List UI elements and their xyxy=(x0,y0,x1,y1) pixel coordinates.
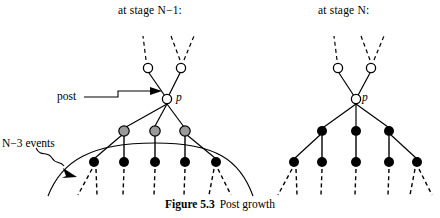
black-node xyxy=(180,157,190,167)
right-open-nodes xyxy=(333,63,375,72)
black-node xyxy=(89,157,99,167)
figure-caption-text: Post growth xyxy=(220,198,275,210)
stage-left-heading: at stage N−1: xyxy=(118,4,182,16)
left-post-to-gray-edges xyxy=(126,104,184,127)
dashed-edge xyxy=(278,169,292,195)
open-node xyxy=(143,63,152,72)
open-node xyxy=(366,63,375,72)
events-pointer-wave xyxy=(36,148,64,166)
black-node xyxy=(384,126,394,136)
right-mid-to-black-edges xyxy=(322,136,389,158)
gray-node xyxy=(150,126,160,136)
figure-drawing-canvas xyxy=(0,0,440,218)
dashed-edge xyxy=(184,169,185,195)
gray-node xyxy=(119,126,129,136)
tree-edge xyxy=(324,104,356,127)
figure-caption: Figure 5.3Post growth xyxy=(0,198,440,210)
left-tree-group xyxy=(36,36,253,196)
black-node xyxy=(317,157,327,167)
gray-node xyxy=(180,126,190,136)
dashed-edge xyxy=(143,36,146,60)
dashed-edge xyxy=(184,36,194,60)
tree-edge xyxy=(187,135,215,158)
figure-caption-number: Figure 5.3 xyxy=(165,198,215,210)
right-upper-dashed-edges xyxy=(334,36,384,60)
tree-edge xyxy=(391,135,416,158)
tree-edge xyxy=(95,135,122,158)
right-mid-black-nodes xyxy=(317,126,394,136)
left-upper-dashed-edges xyxy=(143,36,194,60)
open-node xyxy=(176,63,185,72)
dashed-edge xyxy=(334,36,337,60)
post-pointer-line xyxy=(84,91,155,97)
tree-edge xyxy=(167,104,184,127)
left-lower-dashed-edges xyxy=(78,169,231,195)
dashed-edge xyxy=(154,169,155,195)
left-open-nodes xyxy=(143,63,185,72)
dashed-edge xyxy=(321,169,322,195)
events-callout-label: N−3 events xyxy=(2,137,55,149)
post-node xyxy=(351,94,360,103)
black-node xyxy=(317,126,327,136)
dashed-edge xyxy=(123,169,124,195)
black-node xyxy=(211,157,221,167)
post-node xyxy=(162,94,171,103)
dashed-edge xyxy=(374,36,384,60)
stage-right-heading: at stage N: xyxy=(318,4,369,16)
black-node xyxy=(351,126,361,136)
right-tree-group xyxy=(278,36,432,195)
dashed-edge xyxy=(209,169,214,195)
events-pointer-arrowhead xyxy=(62,168,77,178)
left-black-nodes xyxy=(89,157,221,167)
dashed-edge xyxy=(96,169,97,195)
dashed-edge xyxy=(171,36,180,60)
tree-edge xyxy=(295,135,320,158)
black-node xyxy=(289,157,299,167)
black-node xyxy=(119,157,129,167)
events-enclosure-curve xyxy=(48,143,253,196)
tree-edge xyxy=(356,104,388,127)
left-gray-nodes xyxy=(119,126,190,136)
black-node xyxy=(351,157,361,167)
dashed-edge xyxy=(78,169,92,195)
left-gray-to-black-edges xyxy=(124,136,185,158)
open-node xyxy=(333,63,342,72)
black-node xyxy=(412,157,422,167)
dashed-edge xyxy=(410,169,415,195)
black-node xyxy=(384,157,394,167)
dashed-edge xyxy=(388,169,389,195)
right-post-to-mid-edges xyxy=(324,104,388,127)
dashed-edge xyxy=(218,169,231,195)
figure-post-growth: at stage N−1: at stage N: post N−3 event… xyxy=(0,0,440,218)
dashed-edge xyxy=(419,169,432,195)
right-black-nodes xyxy=(289,157,422,167)
post-node-letter-left: p xyxy=(176,91,182,103)
dashed-edge xyxy=(355,169,356,195)
dashed-edge xyxy=(296,169,297,195)
right-lower-dashed-edges xyxy=(278,169,432,195)
dashed-edge xyxy=(361,36,370,60)
post-callout-label: post xyxy=(57,90,76,102)
post-node-letter-right: p xyxy=(362,91,368,103)
black-node xyxy=(150,157,160,167)
